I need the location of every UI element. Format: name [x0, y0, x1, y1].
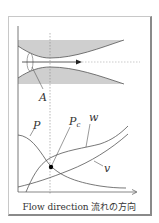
label-v: v — [104, 162, 111, 175]
label-pc: Pc — [68, 115, 80, 129]
curve-w — [26, 126, 128, 192]
nozzle-diagram: A — [18, 40, 140, 104]
figure-caption: Flow direction 流れの方向 — [0, 200, 159, 213]
leader-v — [94, 161, 103, 166]
flow-arrow-icon — [76, 60, 82, 65]
upper-nozzle-wall — [18, 40, 124, 58]
leader-w — [86, 124, 90, 147]
label-w: w — [89, 111, 99, 124]
property-curves: P Pc w v — [18, 111, 137, 195]
leader-pc — [51, 127, 70, 167]
label-p: P — [32, 119, 41, 132]
critical-point-marker — [49, 165, 53, 169]
nozzle-flow-diagram: A P Pc w v — [0, 0, 159, 223]
label-a: A — [38, 91, 47, 104]
